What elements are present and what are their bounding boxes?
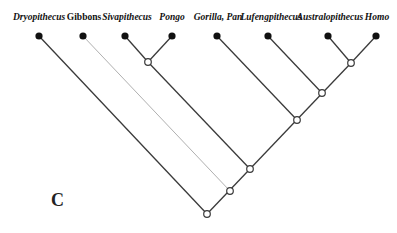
branch-pongo xyxy=(148,36,172,62)
branch-dryopithecus xyxy=(39,36,207,214)
panel-label: C xyxy=(51,190,64,210)
branch-gibbons xyxy=(83,36,230,191)
cladogram: Dryopithecus Gibbons Sivapithecus Pongo … xyxy=(0,0,397,233)
taxon-label-lufengpithecus: Lufengpithecus xyxy=(239,12,302,22)
node-lufeng-clade xyxy=(319,90,326,97)
taxon-label-australopithecus: Australopithecus xyxy=(296,12,364,22)
taxon-label-homo: Homo xyxy=(364,12,390,22)
leaf-dot-lufengpithecus xyxy=(264,32,271,39)
branch-lufengpithecus xyxy=(268,36,322,93)
leaf-dot-gorilla-pan xyxy=(213,32,220,39)
node-root xyxy=(204,211,211,218)
taxon-label-gibbons: Gibbons xyxy=(67,12,102,22)
leaf-dot-sivapithecus xyxy=(121,32,128,39)
branch-australopithecus xyxy=(328,36,351,63)
leaf-dot-homo xyxy=(372,32,379,39)
leaf-dot-australopithecus xyxy=(324,32,331,39)
leaf-nodes xyxy=(35,32,379,39)
branch-homo xyxy=(351,36,376,63)
branch-gorilla-pan xyxy=(217,36,297,120)
taxon-label-pongo: Pongo xyxy=(159,12,185,22)
internal-nodes xyxy=(145,59,355,218)
node-gorilla-clade xyxy=(294,117,301,124)
cladogram-figure: Dryopithecus Gibbons Sivapithecus Pongo … xyxy=(0,0,397,233)
node-gibbon-clade xyxy=(227,188,234,195)
branch-siva-pongo-stem xyxy=(148,62,250,169)
leaf-dot-gibbons xyxy=(79,32,86,39)
taxon-label-sivapithecus: Sivapithecus xyxy=(102,12,152,22)
branches xyxy=(39,36,376,214)
branch-sivapithecus xyxy=(125,36,148,62)
leaf-dot-dryopithecus xyxy=(35,32,42,39)
node-pongine-clade xyxy=(247,166,254,173)
taxon-label-gorilla-pan: Gorilla, Pan xyxy=(194,12,243,22)
leaf-dot-pongo xyxy=(168,32,175,39)
taxon-label-dryopithecus: Dryopithecus xyxy=(12,12,66,22)
node-austr-homo xyxy=(348,60,355,67)
node-siva-pongo xyxy=(145,59,152,66)
